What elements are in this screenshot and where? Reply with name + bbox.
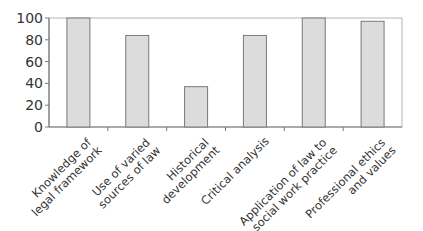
y-tick-label: 20 — [25, 97, 43, 113]
bar — [67, 18, 90, 127]
x-axis-labels: Knowledge oflegal frameworkUse of varied… — [19, 134, 398, 231]
bar — [361, 21, 384, 127]
bar — [243, 35, 266, 127]
y-tick-label: 80 — [25, 32, 43, 48]
plot-frame — [49, 18, 402, 127]
bars — [67, 18, 384, 127]
bar — [302, 18, 325, 127]
x-category-label: Use of variedsources of law — [86, 134, 163, 211]
y-tick-label: 100 — [16, 10, 43, 26]
y-tick-label: 40 — [25, 75, 43, 91]
x-category-label: Knowledge oflegal framework — [19, 134, 104, 219]
y-tick-label: 0 — [34, 119, 43, 135]
bar — [126, 35, 149, 127]
y-tick-label: 60 — [25, 54, 43, 70]
bar-chart: 020406080100 Knowledge oflegal framework… — [0, 0, 423, 231]
bar — [185, 87, 208, 127]
plot-area — [49, 18, 402, 127]
